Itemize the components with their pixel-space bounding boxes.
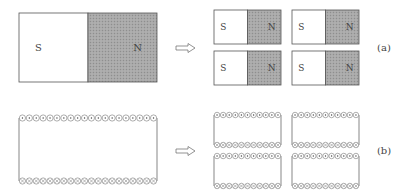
magnet-piece-4-north-label: N — [346, 63, 354, 73]
solenoid-piece-2-dot-mark — [325, 114, 326, 115]
whole-magnet-south-half — [19, 13, 88, 82]
solenoid-piece-2-dot-mark — [343, 114, 344, 115]
solenoid-piece-1-dot-mark — [277, 114, 278, 115]
solenoid-piece-2-dot-mark — [307, 114, 308, 115]
whole-solenoid-dot-mark — [105, 117, 106, 118]
solenoid-piece-2-dot-mark — [349, 114, 350, 115]
magnet-piece-3-south-label: S — [220, 63, 226, 73]
solenoid-piece-3-dot-mark — [277, 155, 278, 156]
solenoid-piece-1-dot-mark — [247, 114, 248, 115]
solenoid-piece-1-dot-mark — [253, 114, 254, 115]
magnet-piece-3-south-half — [214, 51, 248, 85]
whole-solenoid-dot-mark — [146, 117, 147, 118]
solenoid-piece-2-dot-mark — [313, 114, 314, 115]
solenoid-piece-4-dot-mark — [300, 155, 301, 156]
solenoid-piece-2-dot-mark — [300, 114, 301, 115]
figure-canvas: SNSNSNSNSN (a) (b) — [0, 0, 408, 196]
magnet-piece-3-north-label: N — [268, 63, 276, 73]
solenoid-piece-3-dot-mark — [271, 155, 272, 156]
whole-solenoid-dot-mark — [139, 117, 140, 118]
magnet-piece-1-south-label: S — [220, 22, 226, 32]
label-b: (b) — [377, 145, 391, 156]
whole-solenoid-dot-mark — [56, 117, 57, 118]
whole-solenoid-dot-mark — [118, 117, 119, 118]
solenoid-piece-1-dot-mark — [259, 114, 260, 115]
whole-magnet-south-label: S — [35, 42, 42, 53]
magnet-piece-1-south-half — [214, 10, 248, 44]
solenoid-piece-4-dot-mark — [325, 155, 326, 156]
solenoid-piece-4-dot-mark — [307, 155, 308, 156]
whole-solenoid-dot-mark — [36, 117, 37, 118]
solenoid-piece-2-dot-mark — [337, 114, 338, 115]
solenoid-piece-1-dot-mark — [265, 114, 266, 115]
solenoid-piece-4-dot-mark — [337, 155, 338, 156]
arrow-a — [176, 44, 195, 53]
solenoid-piece-4-dot-mark — [343, 155, 344, 156]
whole-magnet-north-half — [88, 13, 157, 82]
solenoid-piece-4-dot-mark — [349, 155, 350, 156]
solenoid-piece-1-dot-mark — [222, 114, 223, 115]
solenoid-piece-3-dot-mark — [229, 155, 230, 156]
whole-solenoid-dot-mark — [84, 117, 85, 118]
whole-solenoid-dot-mark — [49, 117, 50, 118]
magnet-piece-4-south-label: S — [298, 63, 304, 73]
whole-magnet-north-label: N — [133, 42, 142, 53]
solenoid-piece-2-dot-mark — [355, 114, 356, 115]
whole-solenoid-dot-mark — [98, 117, 99, 118]
solenoid-piece-1-dot-mark — [241, 114, 242, 115]
whole-solenoid-dot-mark — [153, 117, 154, 118]
solenoid-piece-4-dot-mark — [294, 155, 295, 156]
magnet-piece-2-north-half — [326, 10, 360, 44]
magnet-piece-2-north-label: N — [346, 22, 354, 32]
whole-solenoid-dot-mark — [29, 117, 30, 118]
whole-solenoid-dot-mark — [42, 117, 43, 118]
whole-solenoid-dot-mark — [132, 117, 133, 118]
solenoid-piece-4-dot-mark — [331, 155, 332, 156]
magnet-piece-2-south-label: S — [298, 22, 304, 32]
magnet-piece-1-north-label: N — [268, 22, 276, 32]
magnet-piece-1-north-half — [248, 10, 282, 44]
solenoid-piece-3-dot-mark — [216, 155, 217, 156]
solenoid-piece-1-dot-mark — [216, 114, 217, 115]
solenoid-piece-3-dot-mark — [265, 155, 266, 156]
whole-solenoid-dot-mark — [125, 117, 126, 118]
magnet-division-figure: SNSNSNSNSN (a) (b) — [0, 0, 408, 196]
solenoid-piece-2-dot-mark — [331, 114, 332, 115]
whole-solenoid-dot-mark — [22, 117, 23, 118]
solenoid-piece-3-dot-mark — [222, 155, 223, 156]
solenoid-piece-3-dot-mark — [253, 155, 254, 156]
whole-solenoid-dot-mark — [111, 117, 112, 118]
magnet-piece-4-south-half — [292, 51, 326, 85]
magnet-piece-2-south-half — [292, 10, 326, 44]
solenoid-piece-2-dot-mark — [319, 114, 320, 115]
solenoid-piece-1-dot-mark — [271, 114, 272, 115]
arrow-b — [176, 147, 195, 156]
solenoid-piece-4-dot-mark — [313, 155, 314, 156]
solenoid-piece-1-dot-mark — [229, 114, 230, 115]
magnet-piece-4-north-half — [326, 51, 360, 85]
solenoid-piece-1-dot-mark — [235, 114, 236, 115]
whole-solenoid-dot-mark — [77, 117, 78, 118]
solenoid-piece-3-dot-mark — [241, 155, 242, 156]
whole-solenoid-dot-mark — [91, 117, 92, 118]
solenoid-piece-3-dot-mark — [235, 155, 236, 156]
solenoid-piece-3-dot-mark — [259, 155, 260, 156]
label-a: (a) — [377, 42, 391, 53]
solenoid-piece-4-dot-mark — [319, 155, 320, 156]
whole-solenoid-dot-mark — [63, 117, 64, 118]
whole-solenoid-dot-mark — [70, 117, 71, 118]
magnet-piece-3-north-half — [248, 51, 282, 85]
solenoid-piece-4-dot-mark — [355, 155, 356, 156]
solenoid-piece-3-dot-mark — [247, 155, 248, 156]
solenoid-piece-2-dot-mark — [294, 114, 295, 115]
